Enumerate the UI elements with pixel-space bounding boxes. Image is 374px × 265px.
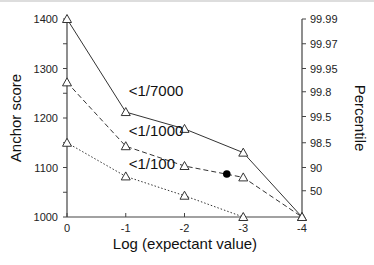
y-tick-label: 1000 (34, 211, 58, 223)
triangle-marker (121, 108, 130, 116)
x-tick-label: -1 (121, 222, 131, 234)
y2-tick-label: 99.99 (310, 13, 338, 25)
series-line-0 (67, 19, 302, 217)
y-tick-label: 1300 (34, 63, 58, 75)
y-tick-label: 1100 (34, 162, 58, 174)
filled-circle-marker (223, 170, 231, 178)
y2-tick-label: 90 (310, 162, 322, 174)
series-group (63, 15, 307, 221)
y-axis-title: Anchor score (7, 74, 24, 162)
y2-tick-label: 98.5 (310, 137, 331, 149)
series-line-2 (67, 143, 243, 217)
y-tick-label: 1400 (34, 13, 58, 25)
triangle-marker (180, 191, 189, 199)
x-tick-label: 0 (64, 222, 70, 234)
series-label: <1/7000 (129, 82, 184, 99)
x-tick-label: -3 (238, 222, 248, 234)
y2-axis-title: Percentile (352, 85, 369, 152)
triangle-marker (63, 78, 72, 86)
y2-tick-label: 99.97 (310, 38, 338, 50)
labels-group: <1/7000<1/1000<1/100 (129, 82, 184, 172)
y-tick-label: 1200 (34, 112, 58, 124)
axes: 100011001200130014000-1-2-3-499.9999.979… (34, 13, 338, 234)
triangle-marker (121, 172, 130, 180)
triangle-marker (239, 148, 248, 156)
x-axis-title: Log (expectant value) (113, 235, 257, 252)
series-label: <1/1000 (129, 122, 184, 139)
y2-tick-label: 99.5 (310, 111, 331, 123)
series-label: <1/100 (129, 155, 175, 172)
triangle-marker (239, 173, 248, 181)
x-tick-label: -2 (180, 222, 190, 234)
y2-tick-label: 99.8 (310, 86, 331, 98)
triangle-marker (180, 162, 189, 170)
y2-tick-label: 99.95 (310, 63, 338, 75)
line-chart: 100011001200130014000-1-2-3-499.9999.979… (0, 0, 374, 265)
y2-tick-label: 50 (310, 185, 322, 197)
x-tick-label: -4 (297, 222, 307, 234)
